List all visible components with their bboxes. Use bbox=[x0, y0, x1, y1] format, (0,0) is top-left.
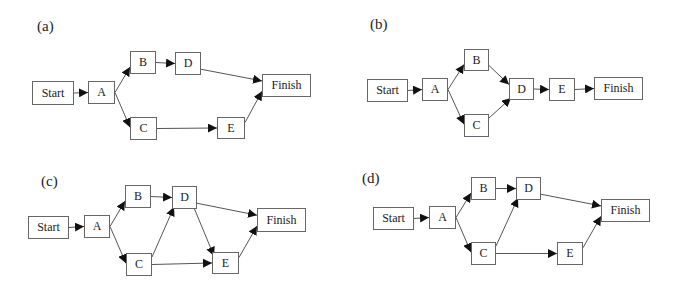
node-a: A bbox=[88, 81, 115, 104]
node-finish: Finish bbox=[601, 199, 650, 222]
node-b: B bbox=[130, 51, 156, 74]
node-e: E bbox=[217, 117, 245, 139]
node-e: E bbox=[549, 78, 575, 101]
node-label: C bbox=[135, 257, 143, 272]
node-label: Start bbox=[37, 220, 60, 235]
node-label: A bbox=[438, 210, 447, 225]
edge-start-to-a bbox=[74, 93, 88, 94]
node-label: Finish bbox=[610, 203, 640, 218]
node-d: D bbox=[516, 177, 541, 200]
edge-d-to-e bbox=[195, 209, 215, 256]
edge-c-to-d bbox=[489, 98, 511, 118]
node-label: D bbox=[180, 190, 189, 205]
node-c: C bbox=[130, 117, 157, 140]
node-label: C bbox=[472, 118, 480, 133]
edge-d-to-finish bbox=[197, 203, 257, 215]
node-a: A bbox=[84, 215, 110, 238]
edge-start-to-a bbox=[414, 218, 429, 219]
node-finish: Finish bbox=[262, 74, 311, 97]
edge-a-to-b bbox=[115, 67, 130, 92]
edge-d-to-finish bbox=[541, 194, 601, 206]
edge-b-to-d bbox=[489, 66, 509, 85]
node-b: B bbox=[125, 185, 151, 208]
panel-label: (d) bbox=[362, 170, 380, 187]
node-label: C bbox=[139, 121, 147, 136]
panel-label: (b) bbox=[370, 16, 388, 33]
node-label: Finish bbox=[603, 81, 633, 96]
node-label: C bbox=[479, 246, 487, 261]
node-label: B bbox=[472, 53, 480, 68]
edge-e-to-finish bbox=[583, 216, 601, 248]
edge-c-to-d bbox=[496, 198, 518, 246]
node-c: C bbox=[471, 242, 496, 265]
node-d: D bbox=[509, 78, 534, 100]
node-label: A bbox=[97, 85, 106, 100]
node-label: E bbox=[227, 121, 234, 136]
edge-d-to-finish bbox=[201, 69, 262, 81]
edge-c-to-d bbox=[152, 207, 174, 257]
node-start: Start bbox=[367, 79, 408, 102]
edge-b-to-d bbox=[151, 197, 172, 198]
node-label: D bbox=[524, 181, 533, 196]
edge-e-to-finish bbox=[245, 91, 262, 122]
edge-e-to-finish bbox=[239, 226, 257, 258]
node-label: E bbox=[222, 256, 229, 271]
edge-a-to-c bbox=[448, 90, 464, 125]
node-label: Finish bbox=[266, 213, 296, 228]
edge-a-to-b bbox=[110, 201, 125, 226]
node-finish: Finish bbox=[257, 208, 306, 232]
node-label: E bbox=[566, 246, 573, 261]
node-label: Start bbox=[382, 211, 405, 226]
node-d: D bbox=[172, 186, 197, 209]
node-label: E bbox=[558, 82, 565, 97]
node-label: A bbox=[93, 219, 102, 234]
edge-start-to-a bbox=[408, 90, 422, 91]
edge-c-to-e bbox=[152, 263, 212, 265]
node-c: C bbox=[464, 114, 489, 137]
node-b: B bbox=[464, 49, 489, 71]
node-start: Start bbox=[28, 216, 69, 239]
node-a: A bbox=[422, 78, 448, 101]
node-label: B bbox=[479, 181, 487, 196]
edge-c-to-e bbox=[157, 128, 217, 129]
node-c: C bbox=[126, 253, 152, 276]
node-start: Start bbox=[373, 207, 414, 230]
panel-label: (a) bbox=[37, 18, 54, 35]
node-a: A bbox=[429, 206, 456, 229]
node-label: D bbox=[184, 56, 193, 71]
node-b: B bbox=[471, 177, 496, 200]
node-label: A bbox=[431, 82, 440, 97]
panel-label: (c) bbox=[41, 173, 58, 190]
node-label: D bbox=[517, 82, 526, 97]
node-d: D bbox=[175, 52, 201, 75]
node-label: B bbox=[134, 189, 142, 204]
node-e: E bbox=[557, 242, 583, 265]
node-label: Finish bbox=[271, 78, 301, 93]
edge-b-to-d bbox=[156, 63, 175, 64]
node-label: Start bbox=[376, 83, 399, 98]
edge-a-to-c bbox=[110, 227, 126, 264]
edge-a-to-b bbox=[456, 193, 471, 217]
node-label: Start bbox=[42, 86, 65, 101]
edge-a-to-c bbox=[456, 218, 471, 253]
edge-a-to-b bbox=[448, 64, 464, 89]
node-finish: Finish bbox=[594, 77, 643, 100]
edge-a-to-c bbox=[115, 93, 130, 128]
node-label: B bbox=[139, 55, 147, 70]
edge-start-to-a bbox=[69, 227, 84, 228]
edge-d-to-e bbox=[534, 89, 549, 90]
edge-e-to-finish bbox=[575, 89, 594, 90]
node-start: Start bbox=[32, 81, 74, 105]
node-e: E bbox=[212, 252, 239, 274]
